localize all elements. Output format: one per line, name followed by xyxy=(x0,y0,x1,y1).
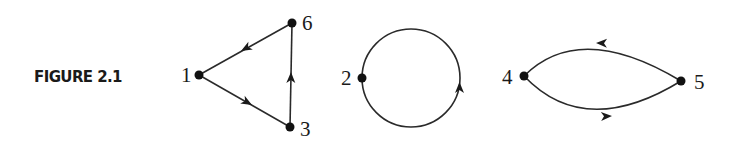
node-1 xyxy=(195,71,204,80)
arrowhead-icon xyxy=(455,82,464,93)
edge-1-to-3 xyxy=(199,75,290,127)
graph-self-loop: 2 xyxy=(341,29,464,127)
edge-4-to-5 xyxy=(524,76,681,109)
graph-two-cycle: 4 5 xyxy=(502,39,705,121)
node-label-6: 6 xyxy=(302,11,313,35)
figure-caption: FIGURE 2.1 xyxy=(34,68,122,86)
node-label-4: 4 xyxy=(502,65,513,89)
graph-triangle: 1 6 3 xyxy=(181,11,313,141)
figure-diagram: FIGURE 2.1 1 6 3 2 xyxy=(0,0,737,145)
node-4 xyxy=(520,72,529,81)
node-label-2: 2 xyxy=(341,66,352,90)
arrowhead-icon xyxy=(596,39,607,48)
edge-2-loop xyxy=(362,29,460,127)
node-label-3: 3 xyxy=(300,117,311,141)
node-3 xyxy=(286,123,295,132)
node-6 xyxy=(288,19,297,28)
node-label-5: 5 xyxy=(694,70,705,94)
arrowhead-icon xyxy=(239,42,253,55)
node-label-1: 1 xyxy=(181,63,192,87)
arrowhead-icon xyxy=(601,112,612,121)
arrowhead-icon xyxy=(240,96,254,109)
edge-5-to-4 xyxy=(524,49,681,81)
node-2 xyxy=(358,74,367,83)
node-5 xyxy=(677,77,686,86)
